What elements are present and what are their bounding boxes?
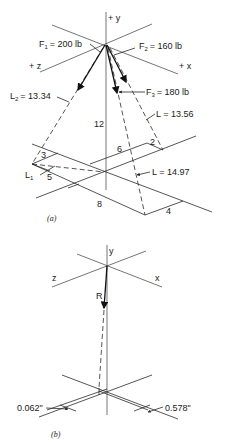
ground-line-1 — [32, 144, 212, 212]
resultant-line-of-action — [99, 310, 104, 388]
rect-edge-4 — [145, 201, 183, 215]
dim-height-12: 12 — [94, 119, 104, 129]
force-diagram: + y + z + x F1= 200 lb F2= 160 lb F3= 18… — [0, 0, 227, 443]
dashed-line-center — [108, 48, 145, 215]
length-l-center-label: L = 14.97 — [152, 167, 189, 177]
f2-leader — [114, 48, 135, 55]
l2-leader — [57, 97, 69, 102]
offset-line-b-1 — [47, 389, 107, 410]
dim-5: 5 — [47, 172, 52, 182]
z-axis-label-b: z — [52, 273, 57, 283]
x-axis-label-a: + x — [179, 61, 192, 71]
caption-b: (b) — [51, 430, 61, 439]
length-l1-label: L1 — [25, 170, 34, 181]
dim-4: 4 — [166, 206, 171, 216]
resultant-r-label: R — [96, 291, 103, 301]
dim-3: 3 — [41, 150, 46, 160]
offset-left-label: 0.062" — [17, 403, 43, 413]
length-l2-label: L2= 13.34 — [10, 91, 51, 102]
x-axis-label-b: x — [155, 273, 160, 283]
right-offset-leader — [148, 407, 163, 412]
dim-6: 6 — [117, 144, 122, 154]
y-axis-label-a: + y — [108, 13, 121, 23]
force-f1-arrow — [78, 45, 105, 90]
l-right-leader — [146, 114, 155, 120]
l-center-leader — [137, 172, 150, 175]
z-axis-label-a: + z — [29, 61, 42, 71]
x-axis-line-b — [77, 254, 162, 287]
ground-line-b-1 — [62, 375, 178, 419]
figure-b: y z x R 0.062" 0.578" (b) — [17, 245, 191, 439]
y-axis-label-b: y — [109, 246, 114, 256]
offset-line-b-2 — [99, 391, 148, 410]
resultant-r-arrow — [104, 266, 107, 308]
force-f1-label: F1= 200 lb — [39, 39, 82, 50]
force-f3-arrow — [106, 45, 117, 93]
dashed-line-right — [110, 48, 163, 150]
dim-8: 8 — [97, 199, 102, 209]
dim-2: 2 — [150, 137, 155, 147]
figure-a: + y + z + x F1= 200 lb F2= 160 lb F3= 18… — [10, 12, 212, 223]
force-f3-label: F3= 180 lb — [146, 87, 189, 98]
length-l-right-label: L = 13.56 — [156, 109, 193, 119]
force-f2-label: F2= 160 lb — [139, 41, 182, 52]
offset-right-label: 0.578" — [165, 403, 191, 413]
caption-a: (a) — [47, 214, 57, 223]
z-axis-line-b — [52, 251, 146, 287]
f1-leader — [90, 44, 100, 52]
